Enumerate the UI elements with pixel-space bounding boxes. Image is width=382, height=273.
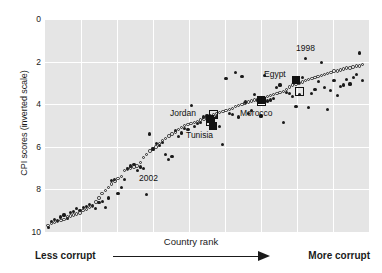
less-corrupt-label: Less corrupt (35, 250, 96, 261)
data-point-1998 (94, 207, 97, 210)
data-point-1998 (348, 82, 351, 85)
gridline-horizontal (45, 104, 369, 105)
annotation-2002: 2002 (139, 174, 158, 183)
data-point-1998 (101, 200, 104, 203)
data-point-1998 (326, 108, 329, 111)
data-point-1998 (358, 51, 361, 54)
data-point-1998 (294, 105, 297, 108)
data-point-2002 (100, 192, 103, 195)
plot-area: 19982002JordanTunisiaMoroccoEgypt (45, 19, 369, 232)
data-point-1998 (104, 206, 107, 209)
data-point-2002 (142, 156, 145, 159)
data-point-1998 (282, 121, 285, 124)
annotation-egypt: Egypt (264, 70, 286, 79)
data-point-2002 (174, 130, 177, 133)
data-point-1998 (310, 92, 313, 95)
data-point-2002 (361, 63, 364, 66)
data-point-1998 (164, 153, 167, 156)
data-point-2002 (97, 196, 100, 199)
data-point-1998 (123, 178, 126, 181)
gridline-vertical (261, 19, 262, 232)
chart-figure: CPI scores (inverted scale) 0246810 1998… (0, 0, 382, 273)
data-point-1998 (304, 57, 307, 60)
data-point-1998 (231, 113, 234, 116)
data-point-1998 (193, 125, 196, 128)
data-point-1998 (170, 155, 173, 158)
data-point-1998 (218, 125, 221, 128)
data-point-1998 (317, 80, 320, 83)
arrow-right-icon (113, 256, 261, 257)
data-point-1998 (278, 83, 281, 86)
country-marker-1998-tunisia (209, 122, 217, 130)
data-point-1998 (224, 77, 227, 80)
data-point-2002 (110, 182, 113, 185)
annotation-jordan: Jordan (170, 109, 196, 118)
data-point-2002 (116, 177, 119, 180)
data-point-1998 (145, 193, 148, 196)
data-point-1998 (323, 86, 326, 89)
country-marker-2002-egypt (295, 87, 304, 96)
country-marker-1998-egypt (292, 76, 300, 84)
gridline-horizontal (45, 147, 369, 148)
gridline-horizontal (45, 232, 369, 233)
data-point-2002 (94, 200, 97, 203)
gridline-horizontal (45, 19, 369, 20)
data-point-1998 (234, 71, 237, 74)
data-point-1998 (142, 167, 145, 170)
more-corrupt-label: More corrupt (308, 250, 370, 261)
data-point-1998 (355, 73, 358, 76)
country-marker-1998-morocco (257, 96, 265, 104)
y-axis-tick-0: 0 (1, 15, 41, 24)
y-axis-tick-labels: 0246810 (0, 0, 41, 273)
gridline-horizontal (45, 189, 369, 190)
annotation-tunisia: Tunisia (186, 131, 213, 140)
gridline-vertical (81, 19, 82, 232)
x-axis-title: Country rank (0, 236, 382, 247)
data-point-1998 (180, 131, 183, 134)
gridline-vertical (225, 19, 226, 232)
data-point-1998 (361, 79, 364, 82)
data-point-1998 (272, 97, 275, 100)
data-point-1998 (148, 132, 151, 135)
gridline-vertical (333, 19, 334, 232)
y-axis-tick-6: 6 (1, 143, 41, 152)
y-axis-tick-8: 8 (1, 185, 41, 194)
data-point-1998 (320, 61, 323, 64)
data-point-1998 (342, 83, 345, 86)
data-point-1998 (177, 135, 180, 138)
gridline-vertical (117, 19, 118, 232)
data-point-1998 (190, 104, 193, 107)
annotation-morocco: Morocco (240, 109, 273, 118)
data-point-2002 (154, 145, 157, 148)
data-point-2002 (139, 161, 142, 164)
data-point-1998 (167, 158, 170, 161)
data-point-1998 (313, 88, 316, 91)
corruption-scale-caption: Less corrupt More corrupt (0, 250, 382, 266)
data-point-1998 (221, 143, 224, 146)
data-point-1998 (329, 89, 332, 92)
y-axis-tick-4: 4 (1, 100, 41, 109)
gridline-vertical (153, 19, 154, 232)
data-point-2002 (135, 164, 138, 167)
arrow-right-head-icon (258, 251, 270, 261)
data-point-1998 (307, 106, 310, 109)
data-point-2002 (104, 189, 107, 192)
data-point-2002 (145, 153, 148, 156)
data-point-1998 (332, 79, 335, 82)
data-point-1998 (136, 169, 139, 172)
data-point-1998 (120, 186, 123, 189)
data-point-1998 (352, 76, 355, 79)
data-point-1998 (116, 192, 119, 195)
data-point-1998 (345, 78, 348, 81)
data-point-1998 (336, 94, 339, 97)
data-point-1998 (240, 75, 243, 78)
data-point-1998 (107, 196, 110, 199)
y-axis-tick-2: 2 (1, 58, 41, 67)
annotation-1998: 1998 (296, 44, 315, 53)
